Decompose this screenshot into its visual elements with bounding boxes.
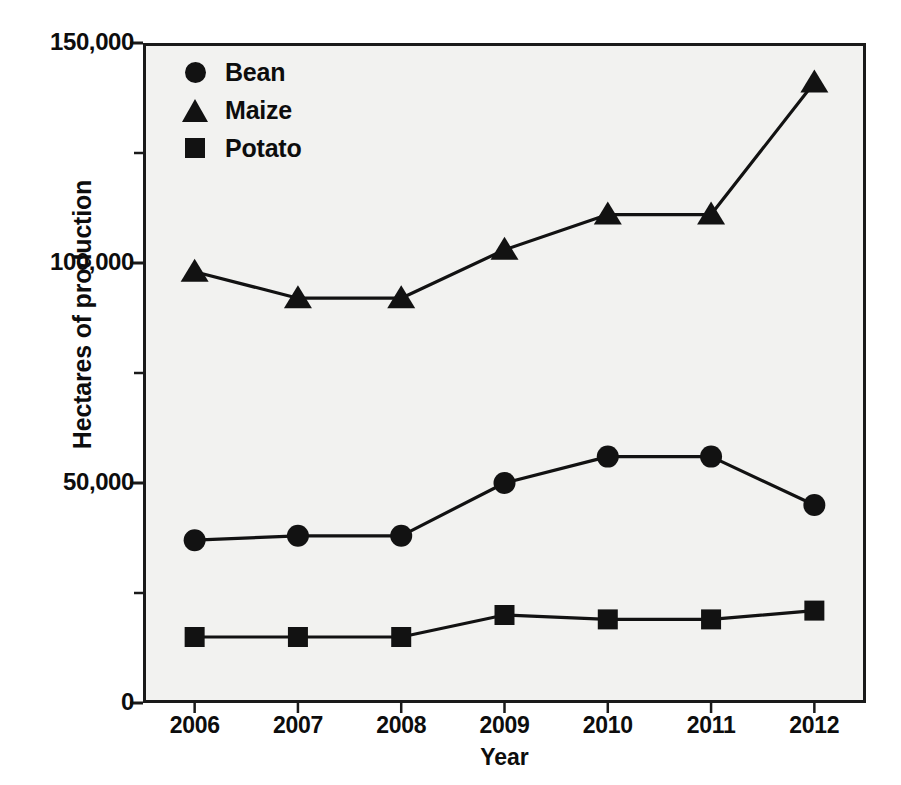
square-marker-icon xyxy=(391,627,411,647)
y-axis-title: Hectares of production xyxy=(68,105,97,525)
triangle-marker-icon xyxy=(178,99,212,122)
circle-marker-icon xyxy=(287,525,309,547)
square-marker-icon xyxy=(178,138,212,158)
legend-item-bean: Bean xyxy=(178,53,388,91)
y-tick-label: 0 xyxy=(0,688,134,716)
square-marker-icon xyxy=(495,605,515,625)
triangle-marker-icon xyxy=(491,237,519,260)
x-tick-label: 2009 xyxy=(445,712,565,739)
series-potato xyxy=(185,601,825,647)
triangle-marker-icon xyxy=(800,70,828,93)
legend-label-maize: Maize xyxy=(225,96,292,125)
legend-item-potato: Potato xyxy=(178,129,388,167)
legend-item-maize: Maize xyxy=(178,91,388,129)
y-tick-label: 150,000 xyxy=(0,28,134,56)
circle-marker-icon xyxy=(597,446,619,468)
chart-legend: Bean Maize Potato xyxy=(178,53,388,167)
circle-marker-icon xyxy=(700,446,722,468)
x-tick-label: 2008 xyxy=(341,712,461,739)
square-marker-icon xyxy=(598,609,618,629)
series-line-bean xyxy=(195,457,815,541)
legend-label-potato: Potato xyxy=(225,134,302,163)
circle-marker-icon xyxy=(803,494,825,516)
series-bean xyxy=(184,446,826,552)
circle-marker-icon xyxy=(184,529,206,551)
circle-marker-icon xyxy=(494,472,516,494)
chart-figure: 050,000100,000150,000 200620072008200920… xyxy=(0,0,901,785)
square-marker-icon xyxy=(185,627,205,647)
x-tick-label: 2012 xyxy=(754,712,874,739)
circle-marker-icon xyxy=(390,525,412,547)
x-tick-label: 2007 xyxy=(238,712,358,739)
x-tick-label: 2006 xyxy=(135,712,255,739)
x-tick-label: 2010 xyxy=(548,712,668,739)
legend-label-bean: Bean xyxy=(225,58,285,87)
square-marker-icon xyxy=(804,601,824,621)
circle-marker-icon xyxy=(178,62,212,83)
x-tick-label: 2011 xyxy=(651,712,771,739)
square-marker-icon xyxy=(288,627,308,647)
triangle-marker-icon xyxy=(181,259,209,282)
square-marker-icon xyxy=(701,609,721,629)
x-axis-title: Year xyxy=(143,744,866,771)
